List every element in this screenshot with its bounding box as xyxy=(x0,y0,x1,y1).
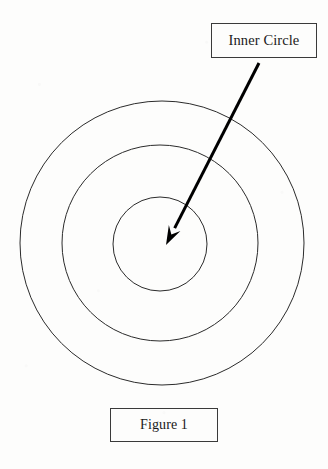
callout-arrow-shaft xyxy=(175,63,259,228)
inner-circle-callout-label: Inner Circle xyxy=(229,32,300,49)
inner-circle xyxy=(113,197,207,291)
figure-caption-box: Figure 1 xyxy=(110,408,218,442)
inner-circle-callout-box: Inner Circle xyxy=(211,23,317,58)
outer-circle xyxy=(20,101,304,385)
middle-circle xyxy=(62,145,258,341)
figure-page: Inner Circle Figure 1 xyxy=(0,0,328,469)
concentric-circles-figure xyxy=(0,0,328,469)
callout-arrow-head xyxy=(166,225,180,245)
figure-caption-label: Figure 1 xyxy=(140,417,188,433)
